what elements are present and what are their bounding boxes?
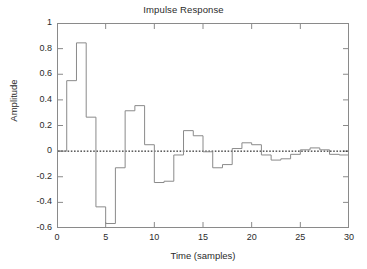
impulse-response-figure: Impulse Response Amplitude -0.6-0.4-0.20…	[0, 0, 367, 269]
plot-area	[57, 23, 349, 228]
y-tick-label: 0.8	[18, 43, 52, 53]
x-tick-label: 20	[237, 232, 267, 242]
x-axis-label: Time (samples)	[57, 250, 349, 261]
impulse-response-plot	[57, 23, 349, 228]
axes-frame	[58, 24, 349, 228]
y-tick-label: 1	[18, 17, 52, 27]
y-tick-label: -0.2	[18, 171, 52, 181]
chart-title: Impulse Response	[0, 4, 367, 15]
y-tick-label: 0.4	[18, 94, 52, 104]
y-tick-label: 0.2	[18, 120, 52, 130]
y-tick-label: -0.6	[18, 222, 52, 232]
x-tick-label: 25	[285, 232, 315, 242]
y-tick-label: 0.6	[18, 68, 52, 78]
x-tick-label: 0	[42, 232, 72, 242]
y-tick-label: -0.4	[18, 196, 52, 206]
x-tick-label: 10	[139, 232, 169, 242]
y-axis-label: Amplitude	[8, 61, 19, 141]
x-tick-label: 5	[91, 232, 121, 242]
tick-marks	[57, 23, 349, 228]
x-tick-label: 15	[188, 232, 218, 242]
impulse-response-series	[57, 43, 349, 224]
y-tick-label: 0	[18, 145, 52, 155]
x-tick-label: 30	[334, 232, 364, 242]
